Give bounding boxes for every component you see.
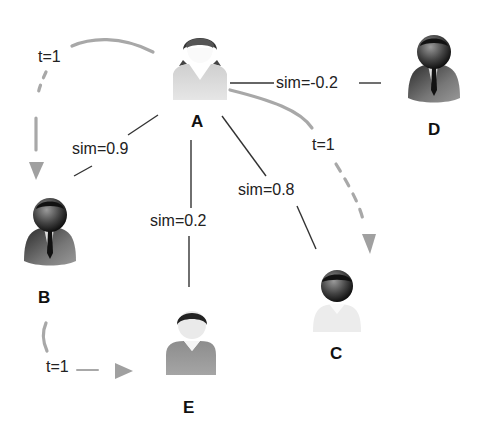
trust-edge-b-e-curve: [43, 323, 47, 351]
trust-edge-a-b-arc: [72, 40, 153, 52]
edge-a-b-sim-seg2: [74, 166, 92, 176]
person-b-icon[interactable]: [24, 198, 76, 266]
node-label-a: A: [191, 112, 203, 132]
edge-label-a-e-sim: sim=0.2: [149, 212, 207, 230]
trust-edge-a-c-down: [336, 164, 364, 225]
edge-label-a-b-sim: sim=0.9: [71, 140, 129, 158]
edge-label-a-d-sim: sim=-0.2: [275, 74, 339, 92]
edge-label-a-c-trust: t=1: [311, 136, 336, 154]
edge-a-b-sim-seg1: [128, 115, 158, 135]
edge-label-a-b-trust: t=1: [37, 48, 62, 66]
node-label-e: E: [183, 398, 194, 418]
node-label-d: D: [428, 120, 440, 140]
trust-edge-a-b-down: [38, 72, 46, 96]
trust-edge-a-c-arc: [230, 90, 312, 128]
arrowhead-to-e: [115, 363, 133, 379]
similarity-edges: [74, 83, 381, 287]
person-a-icon[interactable]: [173, 38, 227, 100]
edge-label-b-e-trust: t=1: [45, 358, 70, 376]
node-label-b: B: [38, 288, 50, 308]
person-c-icon[interactable]: [313, 270, 361, 332]
person-e-icon[interactable]: [166, 311, 216, 375]
edge-label-a-c-sim: sim=0.8: [237, 181, 295, 199]
arrowhead-to-b: [29, 162, 44, 180]
arrowhead-to-c: [362, 234, 376, 254]
edge-a-c-sim-seg2: [297, 206, 316, 249]
social-trust-diagram: [0, 0, 483, 434]
person-d-icon[interactable]: [408, 35, 460, 103]
node-label-c: C: [330, 344, 342, 364]
edge-a-c-sim-seg1: [222, 116, 266, 176]
